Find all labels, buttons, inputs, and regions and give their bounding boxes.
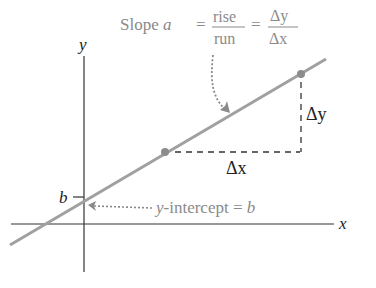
intercept-arrow xyxy=(94,206,152,208)
point-upper xyxy=(297,70,305,78)
slope-intercept-diagram: x y Δx Δy b y-intercept = b Slope a = ri… xyxy=(0,0,376,288)
svg-text:Slope a: Slope a xyxy=(120,15,171,34)
svg-text:=: = xyxy=(196,15,206,34)
svg-text:run: run xyxy=(214,30,235,47)
svg-text:rise: rise xyxy=(213,8,236,25)
intercept-label: y-intercept = b xyxy=(154,198,255,217)
slope-formula: Slope a = rise run = Δy Δx xyxy=(120,7,298,47)
point-lower xyxy=(161,148,169,156)
y-axis-label: y xyxy=(77,35,87,54)
x-axis-label: x xyxy=(338,214,347,233)
slope-arrowhead-icon xyxy=(220,101,230,113)
delta-x-label: Δx xyxy=(226,158,247,178)
svg-text:Δx: Δx xyxy=(269,30,287,47)
svg-text:Δy: Δy xyxy=(270,7,288,25)
slope-arrow xyxy=(212,55,226,110)
b-tick-label: b xyxy=(59,188,68,207)
svg-text:=: = xyxy=(251,15,261,34)
delta-y-label: Δy xyxy=(306,104,327,124)
